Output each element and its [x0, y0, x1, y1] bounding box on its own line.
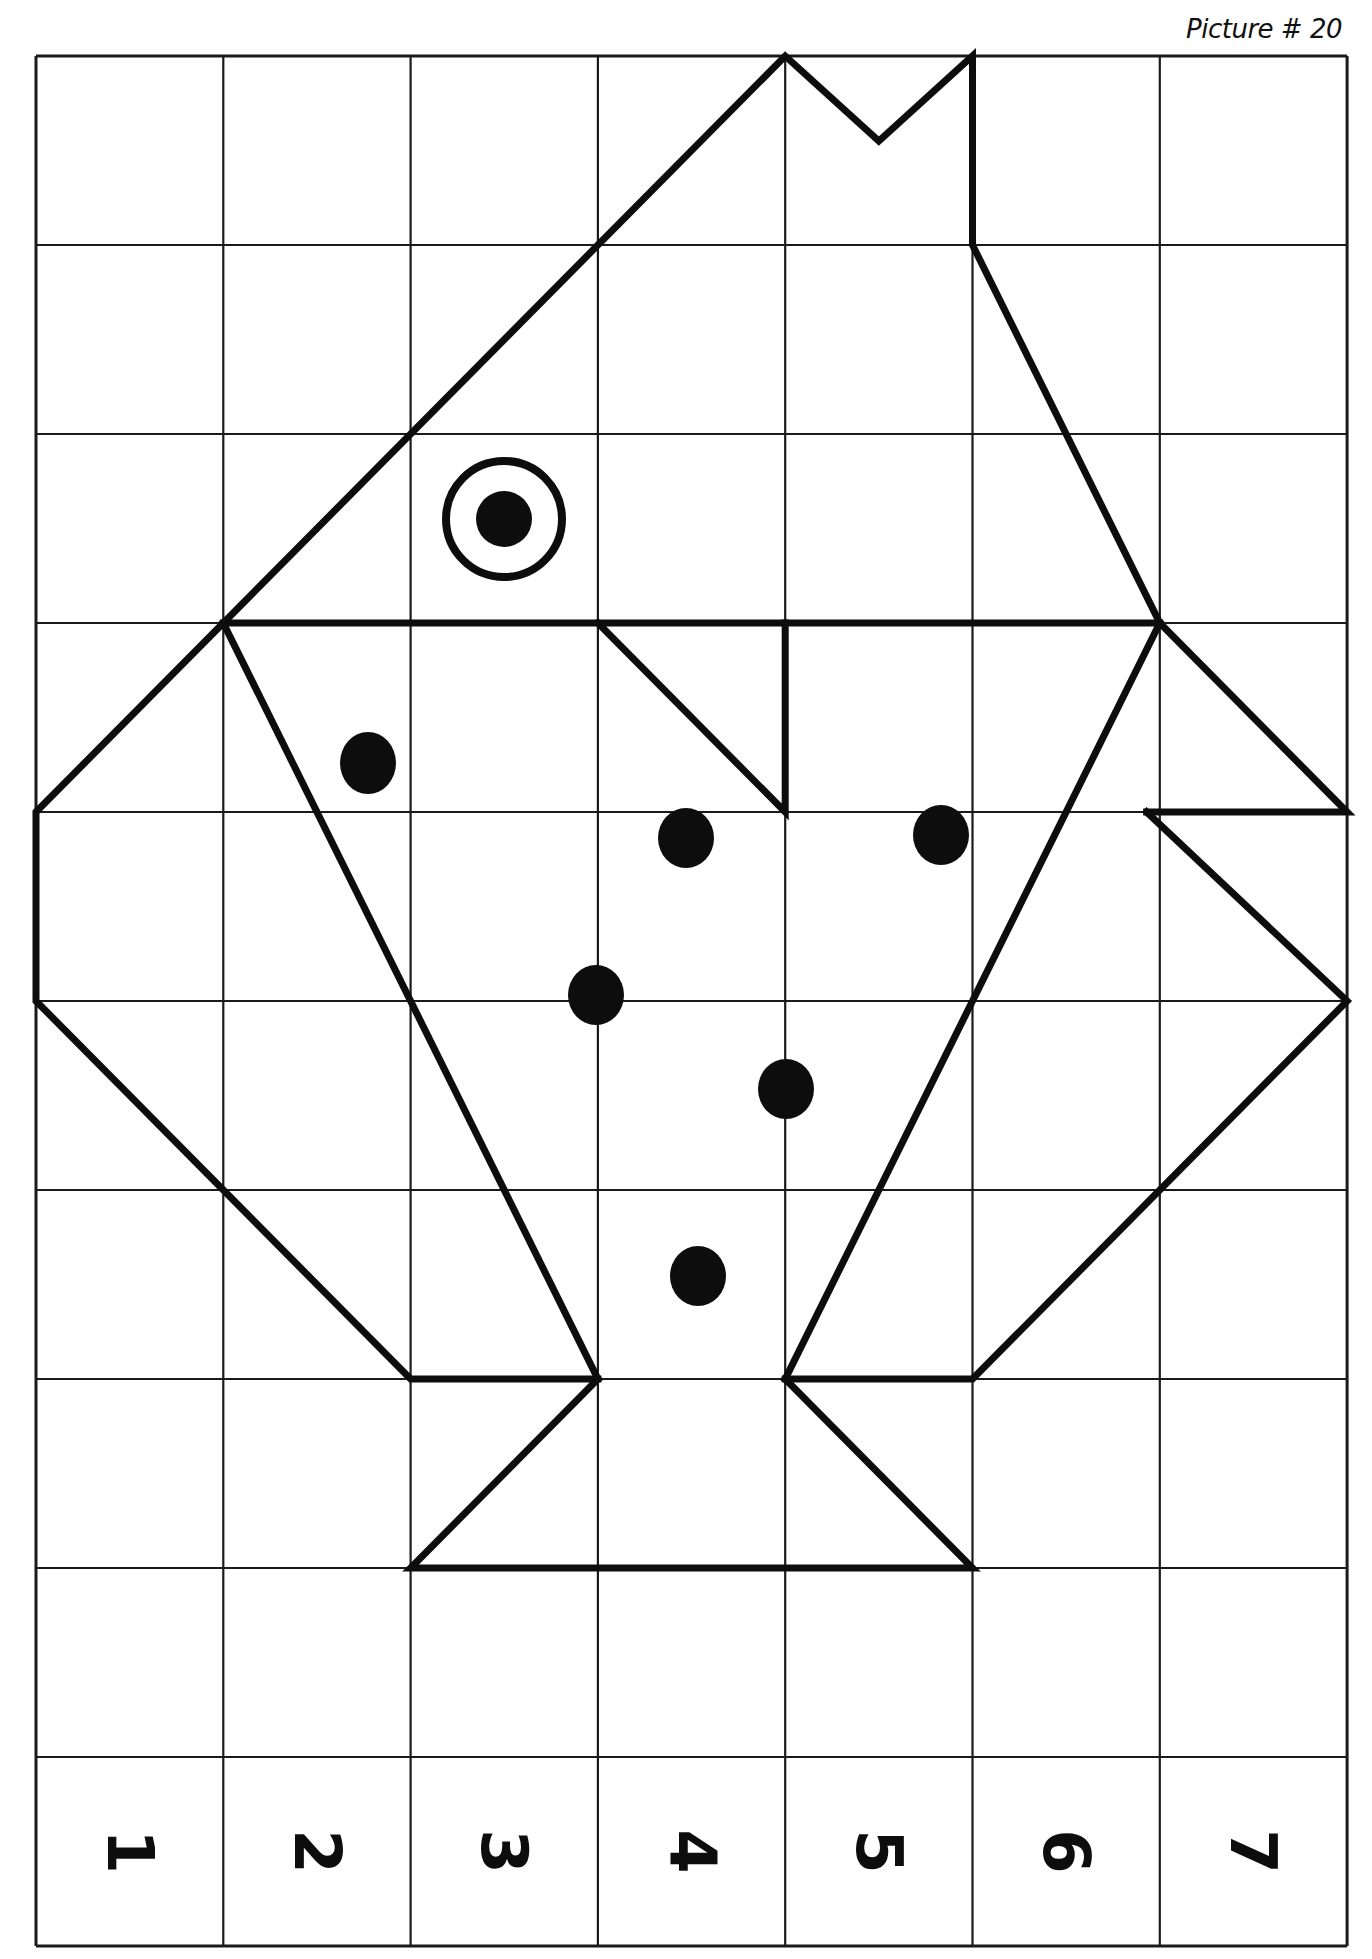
figure-line-feet	[411, 1379, 973, 1568]
figure-dot	[913, 805, 969, 865]
column-number-labels: 1234567	[93, 1829, 1291, 1874]
bird-eye	[446, 461, 562, 577]
grid-lines	[36, 56, 1347, 1946]
column-number-label: 7	[1216, 1829, 1290, 1874]
figure-line-right-wing-upper	[1147, 623, 1347, 812]
bird-figure-dots	[340, 732, 969, 1306]
column-number-label: 2	[280, 1829, 354, 1874]
figure-dot	[658, 808, 714, 868]
figure-dot	[340, 732, 396, 794]
figure-dot	[670, 1246, 726, 1306]
column-number-label: 3	[467, 1829, 541, 1874]
column-number-label: 4	[655, 1829, 729, 1874]
figure-line-right-wing-lower	[785, 812, 1347, 1379]
column-number-label: 1	[93, 1829, 167, 1874]
column-number-label: 5	[842, 1829, 916, 1874]
grid-drawing: 1234567	[0, 0, 1372, 1959]
column-number-label: 6	[1029, 1829, 1103, 1874]
figure-dot	[568, 965, 624, 1025]
eye-pupil	[476, 491, 532, 547]
figure-dot	[758, 1059, 814, 1119]
figure-line-crown-and-head	[223, 56, 1160, 623]
figure-line-beak	[598, 623, 785, 812]
